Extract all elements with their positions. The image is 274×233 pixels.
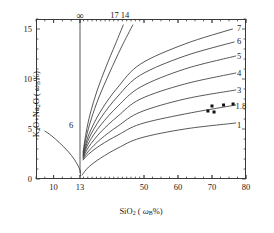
curve-label-7: 7 <box>237 24 241 33</box>
curve-6b <box>83 42 234 156</box>
curve-lines <box>45 19 236 176</box>
chart-figure: 051015 101350607080 6∞1714765431.81 K2O+… <box>0 0 274 233</box>
scatter-point <box>213 111 216 114</box>
x-tick-label: 60 <box>174 183 183 192</box>
y-tick-label: 10 <box>10 75 32 84</box>
curve-label-14: 14 <box>121 11 130 20</box>
curve-4 <box>83 73 236 158</box>
y-axis-title: K2O+Na2O ( ωB%) <box>31 39 41 169</box>
x-tick-label: 13 <box>76 183 85 192</box>
scatter-point <box>222 104 225 107</box>
x-axis-title-text: SiO2 ( ωB%) <box>119 206 162 216</box>
curve-label-infinity: ∞ <box>76 11 83 21</box>
x-tick-label: 80 <box>242 183 251 192</box>
curve-label-5: 5 <box>237 52 241 61</box>
scatter-point <box>211 105 214 108</box>
curve-3 <box>83 90 236 159</box>
curve-label-1.8: 1.8 <box>236 102 247 111</box>
curve-label-3: 3 <box>237 86 241 95</box>
curve-label-1: 1 <box>237 121 241 130</box>
curve-label-6: 6 <box>69 121 73 130</box>
x-tick-label: 10 <box>49 183 58 192</box>
y-tick-label: 15 <box>10 25 32 34</box>
y-tick-label: 5 <box>10 125 32 134</box>
curve-label-17: 17 <box>110 11 119 20</box>
scatter-point <box>206 110 209 113</box>
curve-6 <box>45 131 81 176</box>
y-tick-label: 0 <box>10 175 32 184</box>
curve-label-6b: 6 <box>237 37 241 46</box>
curve-1 <box>82 123 236 175</box>
x-tick-label: 50 <box>140 183 149 192</box>
x-axis-title: SiO2 ( ωB%) <box>36 206 246 216</box>
y-axis-title-text: K2O+Na2O ( ωB%) <box>31 71 41 137</box>
x-tick-label: 70 <box>208 183 217 192</box>
curve-label-4: 4 <box>237 69 241 78</box>
scatter-point <box>232 103 235 106</box>
